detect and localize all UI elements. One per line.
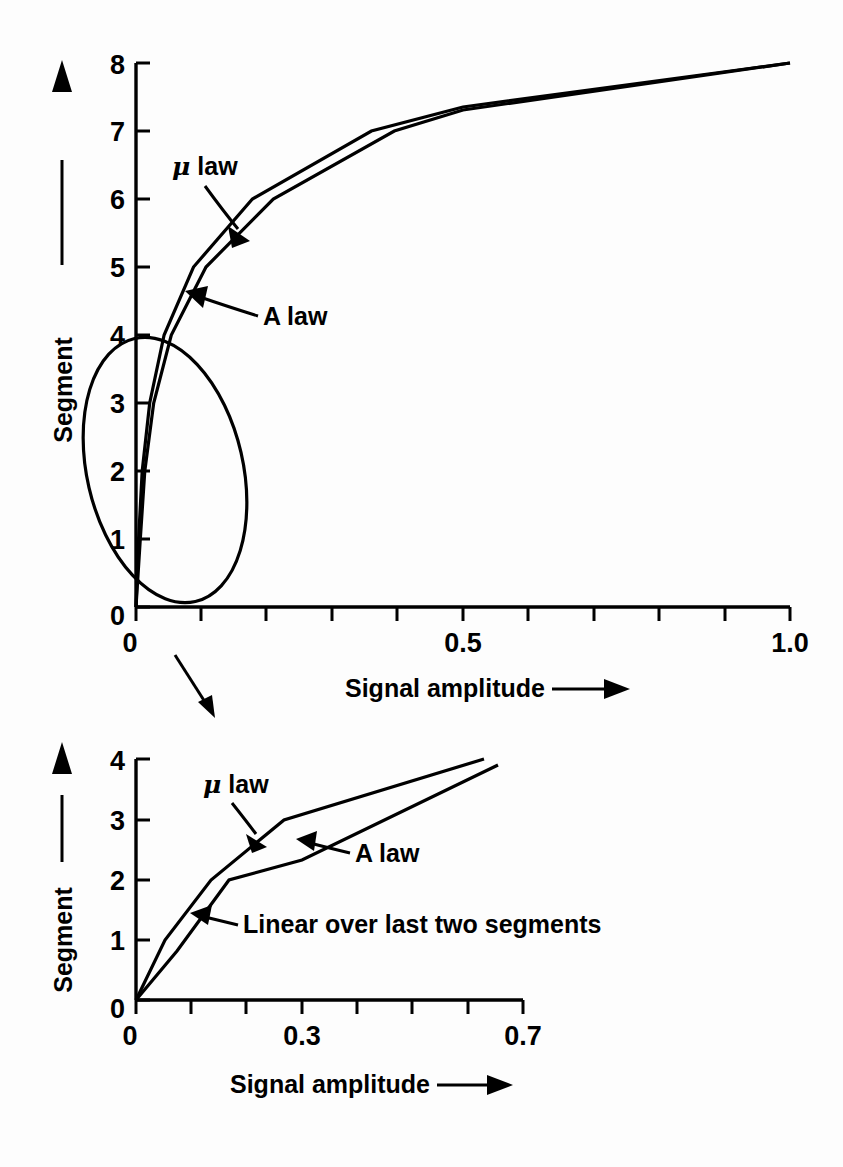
lower-ytick-4: 4 bbox=[110, 746, 125, 776]
lower-a-law-arrowhead-icon bbox=[296, 831, 317, 851]
figure-canvas: 0 1 2 3 4 5 6 7 8 0 0.5 1.0 bbox=[0, 0, 843, 1167]
upper-mu-law-arrowhead-icon bbox=[228, 226, 250, 248]
upper-mu-law-label: μlaw bbox=[172, 152, 238, 181]
mu-symbol-icon: μ bbox=[172, 152, 190, 181]
lower-xtick-0: 0 bbox=[122, 1021, 137, 1051]
upper-ytick-3: 3 bbox=[110, 389, 125, 419]
zoom-link-arrow bbox=[175, 655, 215, 718]
upper-x-axis-arrow-icon bbox=[604, 679, 630, 699]
lower-linear-arrowhead-icon bbox=[190, 905, 212, 925]
upper-x-ticks bbox=[136, 607, 790, 621]
upper-ytick-2: 2 bbox=[110, 457, 125, 487]
upper-mu-law-curve bbox=[136, 63, 790, 607]
upper-ytick-6: 6 bbox=[110, 185, 125, 215]
upper-ytick-7: 7 bbox=[110, 117, 125, 147]
lower-xtick-0-7: 0.7 bbox=[504, 1021, 542, 1051]
upper-mu-law-annotation: μlaw bbox=[172, 152, 250, 248]
zoom-link-arrowhead-icon bbox=[198, 695, 215, 718]
upper-ytick-0: 0 bbox=[110, 601, 125, 631]
lower-a-law-label: A law bbox=[355, 839, 420, 867]
lower-ytick-0: 0 bbox=[110, 994, 125, 1024]
lower-mu-law-curve bbox=[136, 759, 484, 1000]
lower-chart: 0 1 2 3 4 0 0.3 0.7 Segment Signal ampli… bbox=[49, 742, 601, 1098]
upper-a-law-curve bbox=[136, 63, 790, 607]
lower-x-axis-title: Signal amplitude bbox=[230, 1070, 430, 1098]
lower-xtick-0-3: 0.3 bbox=[283, 1021, 321, 1051]
upper-ytick-5: 5 bbox=[110, 253, 125, 283]
upper-y-axis-title-group: Segment bbox=[49, 60, 77, 443]
lower-y-axis-title: Segment bbox=[49, 887, 77, 993]
companding-curves-figure: 0 1 2 3 4 5 6 7 8 0 0.5 1.0 bbox=[0, 0, 843, 1167]
lower-mu-law-label: μlaw bbox=[203, 770, 269, 799]
lower-x-ticks bbox=[136, 1000, 523, 1014]
upper-x-axis-title: Signal amplitude bbox=[345, 674, 545, 702]
mu-symbol-icon: μ bbox=[203, 770, 221, 799]
upper-y-axis-title: Segment bbox=[49, 337, 77, 443]
lower-ytick-1: 1 bbox=[110, 926, 125, 956]
upper-ytick-8: 8 bbox=[110, 50, 125, 80]
lower-x-axis-arrow-icon bbox=[487, 1075, 513, 1095]
lower-y-axis-title-group: Segment bbox=[49, 742, 77, 993]
lower-a-law-curve bbox=[136, 765, 498, 1000]
upper-a-law-annotation: A law bbox=[185, 286, 328, 330]
upper-x-axis-title-group: Signal amplitude bbox=[345, 674, 630, 702]
lower-x-axis-title-group: Signal amplitude bbox=[230, 1070, 513, 1098]
lower-y-axis-arrow-icon bbox=[52, 742, 72, 774]
upper-a-law-label: A law bbox=[263, 302, 328, 330]
upper-chart: 0 1 2 3 4 5 6 7 8 0 0.5 1.0 bbox=[49, 50, 809, 718]
upper-xtick-0: 0 bbox=[122, 628, 137, 658]
upper-xtick-1-0: 1.0 bbox=[771, 628, 809, 658]
lower-a-law-annotation: A law bbox=[296, 831, 420, 867]
lower-linear-label: Linear over last two segments bbox=[243, 910, 601, 938]
upper-xtick-0-5: 0.5 bbox=[444, 628, 482, 658]
lower-linear-annotation: Linear over last two segments bbox=[190, 905, 601, 938]
lower-y-ticks bbox=[136, 759, 150, 1000]
lower-ytick-3: 3 bbox=[110, 806, 125, 836]
upper-y-axis-arrow-icon bbox=[52, 60, 72, 92]
lower-ytick-2: 2 bbox=[110, 866, 125, 896]
